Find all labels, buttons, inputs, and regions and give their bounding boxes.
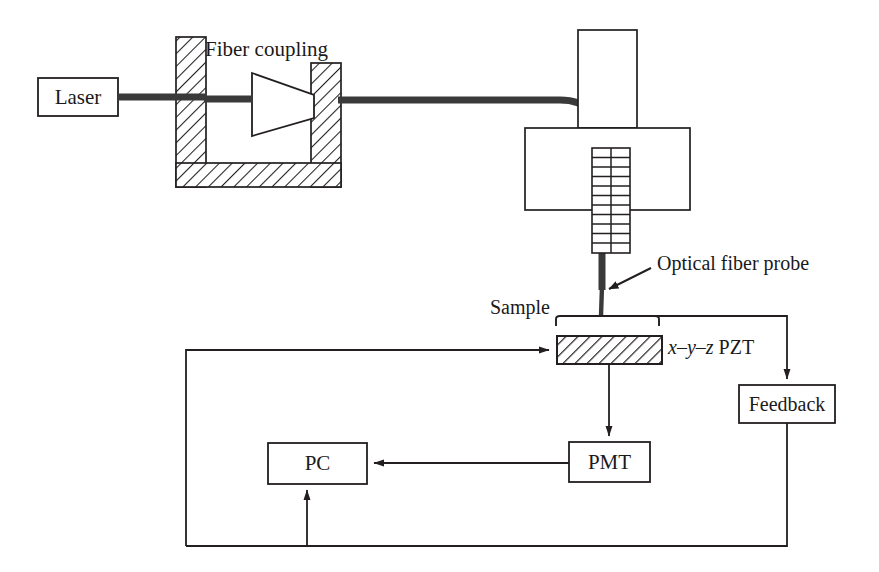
xyz-pzt-label: x–y–z PZT [668,336,754,359]
pc-label: PC [268,443,367,484]
dither-piezo-grid [592,148,630,253]
sample-label: Sample [490,296,550,319]
pzt-axis-z: z [706,336,714,358]
feedback-label: Feedback [739,385,835,423]
fiber-probe-tip [601,286,602,316]
sample-plate [556,316,659,326]
pmt-label: PMT [569,442,650,482]
probe-holder-upper [578,30,637,128]
pzt-axis-y: y [687,336,696,358]
coupling-base [176,163,341,187]
optical-fiber-probe-label: Optical fiber probe [657,252,809,275]
fiber-coupling-label: Fiber coupling [205,37,328,62]
nsom-setup-diagram: Laser Fiber coupling Optical fiber probe… [0,0,879,572]
pzt-axis-x: x [668,336,677,358]
pzt-label-text: PZT [719,336,755,358]
xyz-pzt-block [557,336,662,364]
probe-label-leader [609,268,651,289]
diagram-canvas [0,0,879,572]
pzt-dash-1: – [677,336,687,358]
laser-label: Laser [38,78,118,116]
pzt-dash-2: – [696,336,706,358]
coupling-lens [252,73,314,136]
